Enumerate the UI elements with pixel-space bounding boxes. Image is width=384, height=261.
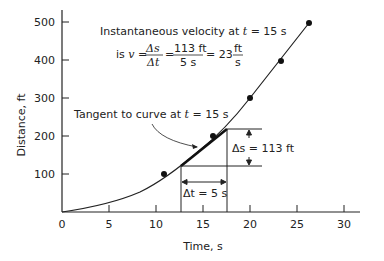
delta-t-arrow	[182, 180, 226, 185]
x-tick-label: 10	[149, 218, 163, 231]
velocity-formula: is v = Δs Δt = 113 ft 5 s = 23 ft s	[116, 42, 243, 69]
svg-text:5 s: 5 s	[180, 56, 196, 69]
tangent-pointer	[152, 124, 197, 147]
tangent-label: Tangent to curve at t = 15 s	[73, 108, 229, 121]
y-axis-label: Distance, ft	[15, 93, 28, 157]
delta-s-label: Δs = 113 ft	[232, 142, 295, 155]
x-tick-label: 25	[290, 218, 304, 231]
chart-svg: 100 200 300 400 500 0 5 10 15 20 25 30 T…	[0, 0, 384, 261]
x-tick-label: 20	[243, 218, 257, 231]
svg-text:is v =: is v =	[116, 48, 147, 61]
x-tick-label: 5	[106, 218, 113, 231]
y-tick-label: 200	[34, 130, 55, 143]
velocity-annotation-line1: Instantaneous velocity at t = 15 s	[100, 25, 287, 38]
x-tick-label: 30	[337, 218, 351, 231]
svg-text:= 23: = 23	[206, 48, 233, 61]
svg-text:113 ft: 113 ft	[174, 42, 207, 55]
x-tick-label: 0	[59, 218, 66, 231]
y-tick-label: 500	[34, 16, 55, 29]
y-tick-label: 100	[34, 168, 55, 181]
y-tick-label: 300	[34, 92, 55, 105]
svg-text:Δs: Δs	[145, 42, 160, 55]
chart: 100 200 300 400 500 0 5 10 15 20 25 30 T…	[0, 0, 384, 261]
svg-text:s: s	[235, 56, 241, 69]
svg-text:Δt: Δt	[146, 56, 160, 69]
delta-t-label: Δt = 5 s	[183, 187, 228, 200]
tangent-line	[181, 129, 227, 166]
x-axis-label: Time, s	[182, 240, 223, 253]
svg-text:ft: ft	[234, 42, 243, 55]
y-ticks	[62, 22, 69, 174]
y-tick-label: 400	[34, 54, 55, 67]
tangent-pointer-head	[192, 144, 198, 149]
svg-text:=: =	[165, 48, 174, 61]
x-tick-label: 15	[196, 218, 210, 231]
